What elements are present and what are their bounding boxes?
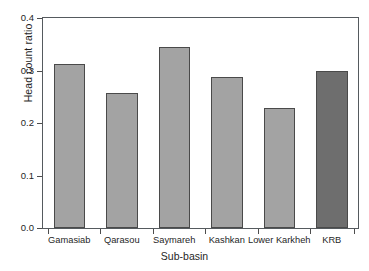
x-tick-label: KRB	[322, 234, 341, 246]
y-tick-label: 0.4	[8, 13, 34, 23]
y-tick-label: 0.3	[8, 66, 34, 76]
x-tick-label: Kashkan	[209, 234, 245, 246]
bar-qarasou	[106, 93, 138, 228]
y-tick-label: 0.2	[8, 118, 34, 128]
bar-lower-karkheh	[264, 108, 296, 228]
bar-kashkan	[211, 77, 243, 228]
x-axis-title: Sub-basin	[0, 250, 369, 262]
bar-chart: Head count ratio 0.00.10.20.30.4 Gamasia…	[0, 0, 369, 271]
bar-gamasiab	[54, 64, 86, 228]
bar-saymareh	[159, 47, 191, 228]
plot-area	[43, 18, 358, 228]
bar-krb	[316, 71, 348, 229]
x-tick-label: Qarasou	[104, 234, 140, 246]
y-tick-label: 0.1	[8, 171, 34, 181]
x-tick-label: Saymareh	[153, 234, 195, 246]
x-tick-label: Gamasiab	[48, 234, 90, 246]
x-axis-tick-labels: GamasiabQarasouSaymarehKashkanLower Kark…	[0, 234, 369, 248]
x-tick-label: Lower Karkheh	[248, 234, 311, 246]
